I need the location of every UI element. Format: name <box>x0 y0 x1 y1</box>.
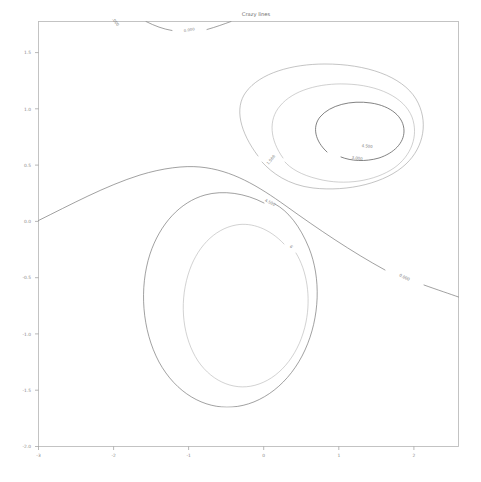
y-tick-label: -2.0 <box>22 444 31 449</box>
contour-path-0000-top <box>207 22 231 30</box>
x-tick-label: -3 <box>36 453 41 458</box>
contour-label: 4.500 <box>361 143 373 149</box>
contour-label: 1.500 <box>265 153 276 165</box>
contour-path-0000-top <box>146 22 172 31</box>
contour-label: 0.000 <box>399 272 412 282</box>
contour-label: 4.500 <box>264 198 277 208</box>
contour-path-0000-saddle <box>39 167 386 270</box>
y-tick-label: -0.5 <box>22 275 31 280</box>
y-tick-label: 1.0 <box>24 107 31 112</box>
contour-figure: Crazy lines -3 -2 -1 0 1 2 <box>0 0 481 482</box>
x-tick-label: -1 <box>186 453 191 458</box>
contour-path-0000-saddle <box>424 285 459 297</box>
contour-path-4500-lower <box>144 193 318 408</box>
contour-label: 0.000 <box>183 26 195 33</box>
contour-label: 6.000 <box>111 17 294 249</box>
x-tick-label: 2 <box>413 453 416 458</box>
contour-lines <box>39 22 459 408</box>
x-tick-label: -2 <box>111 453 116 458</box>
contour-path-6000 <box>183 224 308 387</box>
y-tick-label: -1.5 <box>22 388 31 393</box>
y-axis: -2.0 -1.5 -1.0 -0.5 0.0 0.5 1.0 1.5 <box>22 50 38 449</box>
axes-frame <box>39 22 459 447</box>
contour-path-4500-upper <box>316 102 404 160</box>
contour-path-3000 <box>272 84 415 182</box>
x-tick-label: 0 <box>262 453 265 458</box>
x-tick-label: 1 <box>337 453 340 458</box>
contour-labels: 0.000 0.000 1.500 3.000 4.500 4.500 6.00… <box>111 17 411 282</box>
plot-canvas: Crazy lines -3 -2 -1 0 1 2 <box>0 0 481 482</box>
y-tick-label: 1.5 <box>24 50 31 55</box>
y-tick-label: 0.5 <box>24 163 31 168</box>
page-title: Crazy lines <box>242 11 271 18</box>
y-tick-label: -1.0 <box>22 332 31 337</box>
contour-path-1500 <box>240 64 424 189</box>
x-axis: -3 -2 -1 0 1 2 <box>36 447 415 459</box>
y-tick-label: 0.0 <box>24 219 31 224</box>
